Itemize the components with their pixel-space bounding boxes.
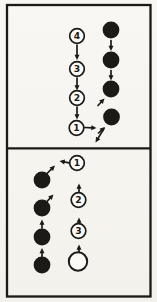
arrow-black1-exit [47, 166, 56, 175]
arrow-2-to-1-head [75, 114, 80, 119]
white-circle-2: 2 [71, 193, 86, 208]
black-circle-2 [34, 200, 51, 217]
circle-number: 2 [75, 194, 81, 205]
filled-circle [34, 229, 51, 246]
arrow-4-to-3-head [75, 55, 80, 60]
arrow-black4-exit [96, 129, 105, 143]
white-circle-4: 4 [70, 29, 85, 44]
arrow-black1-down [109, 41, 114, 52]
white-circle-3: 3 [71, 224, 86, 239]
arrow-black3-up-head [40, 220, 45, 225]
circle-number: 1 [74, 157, 80, 168]
arrow-into-black3 [98, 99, 105, 106]
arrow-3-to-2-head [75, 85, 80, 90]
black-circle-3 [34, 229, 51, 246]
white-circle-1: 1 [70, 156, 85, 171]
white-circle-empty [69, 252, 87, 270]
black-circle-4 [34, 257, 51, 274]
black-circle-2 [103, 52, 120, 69]
arrow-3-to-2 [75, 78, 80, 91]
black-circle-4 [103, 109, 120, 126]
arrow-2-to-1 [77, 184, 82, 193]
white-circle-1: 1 [69, 121, 84, 136]
arrow-2-to-1 [75, 107, 80, 120]
arrow-1-right [85, 125, 97, 130]
arrow-black3-up [40, 220, 45, 229]
circle-number: 4 [74, 30, 80, 41]
scanned-figure-page: 4321123 [0, 0, 157, 302]
black-circle-1 [34, 172, 51, 189]
filled-circle [34, 172, 51, 189]
white-circle-2: 2 [70, 91, 85, 106]
figure-canvas: 4321123 [0, 0, 157, 302]
circle-number: 2 [74, 92, 80, 103]
empty-circle [69, 252, 87, 270]
circle-number: 3 [75, 225, 81, 236]
arrow-black2-up [47, 195, 54, 203]
arrow-4-to-3 [75, 45, 80, 60]
arrow-1-left-head [60, 160, 66, 165]
filled-circle [34, 257, 51, 274]
black-circle-3 [103, 81, 120, 98]
arrow-black2-down [109, 71, 114, 81]
arrow-black2-down-head [109, 75, 114, 80]
arrow-3-to-2-head [77, 218, 82, 223]
top-panel: 4321 [69, 22, 120, 143]
arrow-black4-up [40, 248, 45, 257]
filled-circle [103, 52, 120, 69]
arrow-black1-down-head [109, 46, 114, 51]
filled-circle [34, 200, 51, 217]
arrow-2-to-1-head [77, 184, 82, 189]
filled-circle [103, 109, 120, 126]
arrow-1-right-head [91, 125, 96, 130]
circle-number: 1 [73, 122, 79, 133]
filled-circle [103, 22, 120, 39]
white-circle-3: 3 [70, 62, 85, 77]
arrow-empty-to-3-head [77, 245, 82, 250]
filled-circle [103, 81, 120, 98]
arrow-black4-up-head [40, 248, 45, 253]
black-circle-1 [103, 22, 120, 39]
bottom-panel: 123 [34, 156, 88, 274]
arrow-1-left [60, 160, 70, 165]
circle-number: 3 [74, 63, 80, 74]
